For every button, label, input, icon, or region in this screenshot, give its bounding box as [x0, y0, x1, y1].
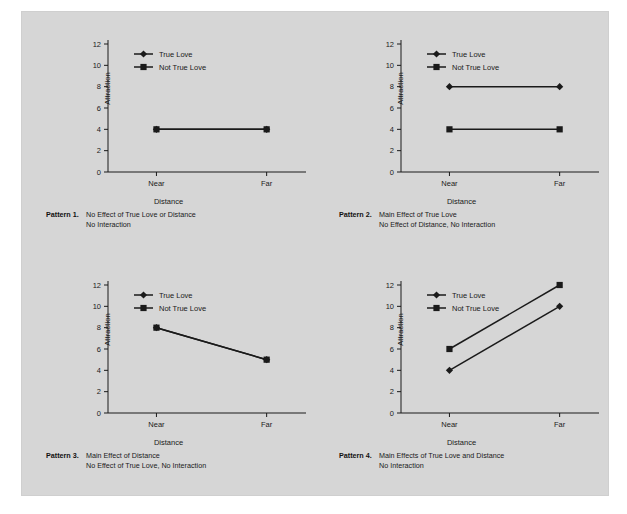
y-tick-label: 12	[386, 40, 394, 49]
y-tick-label: 2	[390, 387, 394, 396]
x-category-label: Near	[148, 179, 165, 188]
square-marker	[140, 64, 146, 70]
square-marker	[433, 305, 439, 311]
y-tick-label: 10	[386, 61, 394, 70]
y-tick-label: 10	[93, 302, 101, 311]
plot-area-pattern-2: Attraction024681012NearFarTrue LoveNot T…	[315, 12, 608, 212]
square-marker	[264, 126, 270, 132]
y-tick-label: 10	[386, 302, 394, 311]
y-tick-label: 0	[390, 168, 394, 177]
y-tick-label: 2	[97, 387, 101, 396]
chart-panel-pattern-1: Attraction024681012NearFarTrue LoveNot T…	[22, 12, 315, 253]
y-tick-label: 2	[390, 146, 394, 155]
plot-area-pattern-3: Attraction024681012NearFarTrue LoveNot T…	[22, 253, 315, 453]
legend-label: True Love	[159, 50, 193, 59]
y-tick-label: 6	[390, 345, 394, 354]
x-axis-title: Distance	[22, 438, 315, 447]
diamond-marker	[140, 291, 147, 298]
y-tick-label: 0	[97, 409, 101, 418]
chart-panel-pattern-4: Attraction024681012NearFarTrue LoveNot T…	[315, 253, 608, 494]
caption-body: No Effect of True Love or DistanceNo Int…	[86, 210, 196, 231]
square-marker	[557, 282, 563, 288]
legend-label: True Love	[452, 50, 486, 59]
caption-line-1: Main Effect of Distance	[86, 451, 206, 461]
x-axis-title: Distance	[22, 197, 315, 206]
y-tick-label: 6	[390, 104, 394, 113]
series-line	[449, 306, 559, 370]
y-tick-label: 4	[390, 125, 394, 134]
plot-svg: 024681012NearFarTrue LoveNot True Love	[22, 12, 315, 212]
diamond-marker	[433, 50, 440, 57]
caption-body: Main Effects of True Love and DistanceNo…	[379, 451, 504, 472]
x-category-label: Far	[554, 179, 566, 188]
panel-grid: Attraction024681012NearFarTrue LoveNot T…	[22, 12, 608, 495]
y-tick-label: 8	[390, 323, 394, 332]
legend-label: True Love	[452, 291, 486, 300]
diamond-marker	[556, 303, 563, 310]
y-tick-label: 8	[97, 82, 101, 91]
caption-label: Pattern 1.	[22, 210, 86, 219]
x-axis-title: Distance	[315, 438, 608, 447]
chart-panel-pattern-2: Attraction024681012NearFarTrue LoveNot T…	[315, 12, 608, 253]
square-marker	[140, 305, 146, 311]
legend-label: True Love	[159, 291, 193, 300]
caption-line-2: No Interaction	[86, 220, 196, 230]
y-tick-label: 4	[97, 366, 101, 375]
y-tick-label: 8	[97, 323, 101, 332]
square-marker	[264, 357, 270, 363]
y-tick-label: 4	[97, 125, 101, 134]
series-line	[156, 328, 266, 360]
plot-area-pattern-1: Attraction024681012NearFarTrue LoveNot T…	[22, 12, 315, 212]
diamond-marker	[140, 50, 147, 57]
legend-label: Not True Love	[452, 63, 499, 72]
x-category-label: Far	[261, 420, 273, 429]
chart-panel-pattern-3: Attraction024681012NearFarTrue LoveNot T…	[22, 253, 315, 494]
caption-line-1: No Effect of True Love or Distance	[86, 210, 196, 220]
x-axis-title: Distance	[315, 197, 608, 206]
plot-area-pattern-4: Attraction024681012NearFarTrue LoveNot T…	[315, 253, 608, 453]
plot-svg: 024681012NearFarTrue LoveNot True Love	[315, 253, 608, 453]
x-category-label: Near	[148, 420, 165, 429]
y-tick-label: 6	[97, 345, 101, 354]
x-category-label: Near	[441, 420, 458, 429]
caption-body: Main Effect of True LoveNo Effect of Dis…	[379, 210, 495, 231]
caption-line-2: No Effect of True Love, No Interaction	[86, 461, 206, 471]
y-tick-label: 12	[386, 281, 394, 290]
diamond-marker	[446, 83, 453, 90]
caption-line-2: No Interaction	[379, 461, 504, 471]
caption-label: Pattern 3.	[22, 451, 86, 460]
square-marker	[557, 126, 563, 132]
caption-label: Pattern 2.	[315, 210, 379, 219]
legend-label: Not True Love	[159, 304, 206, 313]
plot-svg: 024681012NearFarTrue LoveNot True Love	[22, 253, 315, 453]
panel-caption-pattern-4: Pattern 4.Main Effects of True Love and …	[315, 451, 608, 472]
y-tick-label: 12	[93, 40, 101, 49]
diamond-marker	[446, 367, 453, 374]
y-tick-label: 4	[390, 366, 394, 375]
caption-label: Pattern 4.	[315, 451, 379, 460]
panel-caption-pattern-3: Pattern 3.Main Effect of DistanceNo Effe…	[22, 451, 315, 472]
y-tick-label: 0	[97, 168, 101, 177]
plot-svg: 024681012NearFarTrue LoveNot True Love	[315, 12, 608, 212]
figure-panel: Attraction024681012NearFarTrue LoveNot T…	[22, 12, 608, 495]
panel-caption-pattern-2: Pattern 2.Main Effect of True LoveNo Eff…	[315, 210, 608, 231]
legend-label: Not True Love	[159, 63, 206, 72]
square-marker	[153, 126, 159, 132]
y-tick-label: 12	[93, 281, 101, 290]
caption-line-1: Main Effect of True Love	[379, 210, 495, 220]
x-category-label: Near	[441, 179, 458, 188]
y-tick-label: 8	[390, 82, 394, 91]
caption-line-1: Main Effects of True Love and Distance	[379, 451, 504, 461]
diamond-marker	[433, 291, 440, 298]
legend-label: Not True Love	[452, 304, 499, 313]
y-tick-label: 0	[390, 409, 394, 418]
square-marker	[446, 126, 452, 132]
y-tick-label: 2	[97, 146, 101, 155]
square-marker	[153, 325, 159, 331]
square-marker	[433, 64, 439, 70]
caption-line-2: No Effect of Distance, No Interaction	[379, 220, 495, 230]
panel-caption-pattern-1: Pattern 1.No Effect of True Love or Dist…	[22, 210, 315, 231]
x-category-label: Far	[261, 179, 273, 188]
y-tick-label: 10	[93, 61, 101, 70]
x-category-label: Far	[554, 420, 566, 429]
